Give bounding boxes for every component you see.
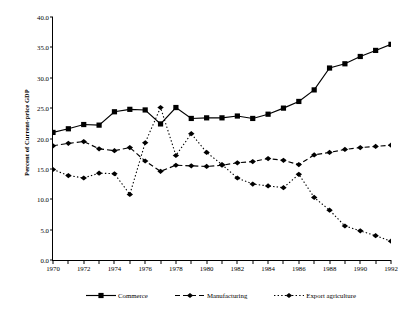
x-tick-mark	[206, 260, 207, 264]
data-point	[111, 148, 117, 153]
data-point	[203, 150, 209, 155]
y-axis-title: Percent of Current-price GDP	[23, 33, 30, 233]
x-tick-label: 1976	[138, 265, 152, 272]
x-tick-label: 1974	[108, 265, 122, 272]
data-point	[53, 130, 56, 135]
x-tick-mark	[99, 260, 100, 264]
legend-label: Export agriculture	[306, 292, 356, 299]
x-tick-mark	[114, 260, 115, 264]
y-tick-label: 35.0	[37, 44, 49, 51]
data-point	[173, 163, 179, 168]
data-point	[111, 171, 117, 176]
x-tick-mark	[252, 260, 253, 264]
x-tick-label: 1990	[353, 265, 367, 272]
plot-area: 0.05.010.015.020.025.030.035.040.0197019…	[52, 17, 391, 261]
legend-swatch-dashed-diamond-icon	[175, 291, 205, 300]
data-point	[203, 164, 209, 169]
y-tick-label: 0.0	[41, 257, 50, 264]
series-line	[53, 108, 391, 242]
y-tick-label: 40.0	[37, 14, 49, 21]
data-point	[265, 156, 271, 161]
data-point	[53, 167, 56, 172]
data-point	[81, 175, 87, 180]
x-tick-mark	[160, 260, 161, 264]
series-export-agriculture	[53, 105, 391, 244]
data-point	[357, 145, 363, 150]
y-tick-label: 20.0	[37, 135, 49, 142]
data-point	[327, 65, 332, 70]
y-tick-label: 5.0	[41, 226, 50, 233]
data-point	[342, 61, 347, 66]
data-point	[142, 140, 148, 145]
data-point	[96, 171, 102, 176]
data-point	[388, 143, 391, 148]
data-point	[250, 181, 256, 186]
data-point	[127, 192, 133, 197]
x-tick-mark	[145, 260, 146, 264]
chart-canvas	[53, 17, 391, 260]
data-point	[296, 99, 301, 104]
data-point	[250, 116, 255, 121]
y-tick-mark	[50, 138, 54, 139]
x-tick-mark	[175, 260, 176, 264]
legend-item-commerce: Commerce	[86, 291, 148, 300]
data-point	[296, 162, 302, 167]
series-manufacturing	[53, 139, 391, 174]
data-point	[373, 48, 378, 53]
data-point	[265, 183, 271, 188]
data-point	[372, 144, 378, 149]
x-tick-mark	[191, 260, 192, 264]
x-tick-label: 1972	[77, 265, 91, 272]
chart-legend: CommerceManufacturingExport agriculture	[52, 288, 390, 302]
y-tick-mark	[50, 77, 54, 78]
data-point	[388, 42, 391, 47]
x-tick-mark	[237, 260, 238, 264]
data-point	[188, 163, 194, 168]
x-tick-label: 1986	[292, 265, 306, 272]
x-tick-mark	[298, 260, 299, 264]
y-tick-mark	[50, 168, 54, 169]
data-point	[112, 109, 117, 114]
x-tick-label: 1984	[261, 265, 275, 272]
data-point	[53, 143, 56, 148]
data-point	[96, 146, 102, 151]
data-point	[81, 139, 87, 144]
x-tick-mark	[129, 260, 130, 264]
data-point	[219, 115, 224, 120]
y-tick-mark	[50, 47, 54, 48]
x-tick-label: 1970	[46, 265, 60, 272]
data-point	[96, 123, 101, 128]
data-point	[204, 115, 209, 120]
chart-figure: Percent of Current-price GDP 0.05.010.01…	[0, 0, 409, 314]
y-tick-mark	[50, 229, 54, 230]
legend-item-export-agriculture: Export agriculture	[274, 291, 356, 300]
data-point	[296, 172, 302, 177]
data-point	[280, 185, 286, 190]
legend-swatch-solid-square-icon	[86, 291, 116, 300]
legend-label: Commerce	[118, 292, 148, 299]
data-point	[265, 112, 270, 117]
x-tick-mark	[360, 260, 361, 264]
y-tick-mark	[50, 108, 54, 109]
data-point	[65, 173, 71, 178]
x-tick-label: 1992	[384, 265, 398, 272]
x-tick-mark	[283, 260, 284, 264]
data-point	[358, 54, 363, 59]
data-point	[173, 105, 178, 110]
data-point	[157, 105, 163, 110]
legend-label: Manufacturing	[207, 292, 247, 299]
x-tick-label: 1988	[323, 265, 337, 272]
legend-item-manufacturing: Manufacturing	[175, 291, 247, 300]
data-point	[188, 131, 194, 136]
data-point	[281, 106, 286, 111]
x-tick-mark	[268, 260, 269, 264]
y-tick-label: 10.0	[37, 196, 49, 203]
data-point	[312, 87, 317, 92]
legend-swatch-dotted-diamond-icon	[274, 291, 304, 300]
data-point	[280, 158, 286, 163]
data-point	[372, 233, 378, 238]
series-commerce	[53, 42, 391, 135]
data-point	[234, 160, 240, 165]
y-tick-label: 25.0	[37, 105, 49, 112]
y-tick-label: 15.0	[37, 165, 49, 172]
